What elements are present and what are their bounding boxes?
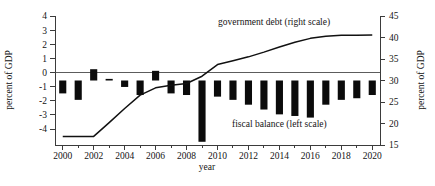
fiscal-balance-bar (307, 81, 314, 118)
x-tick-label: 2004 (115, 151, 134, 161)
fiscal-balance-bar (353, 81, 360, 99)
right-tick-label: 15 (389, 140, 399, 150)
left-tick-label: 0 (42, 68, 47, 78)
fiscal-balance-bar (198, 81, 205, 142)
fiscal-balance-bar (90, 69, 97, 80)
right-tick-label: 20 (389, 119, 399, 129)
x-tick-label: 2018 (332, 151, 351, 161)
right-tick-label: 45 (389, 11, 399, 21)
x-tick-label: 2020 (363, 151, 382, 161)
fiscal-balance-bar (106, 79, 113, 81)
x-tick-label: 2006 (146, 151, 165, 161)
fiscal-balance-bar (121, 81, 128, 87)
left-tick-label: -4 (39, 124, 47, 134)
fiscal-balance-bar (152, 71, 159, 81)
right-tick-label: 40 (389, 33, 399, 43)
x-tick-label: 2016 (301, 151, 320, 161)
right-tick-label: 30 (389, 76, 399, 86)
fiscal-balance-bar (291, 81, 298, 116)
left-tick-label: -3 (39, 110, 47, 120)
x-tick-label: 2010 (208, 151, 227, 161)
x-axis-tick-labels: 2000200220042006200820102012201420162018… (53, 151, 382, 161)
right-tick-label: 25 (389, 97, 399, 107)
left-tick-label: -1 (39, 82, 47, 92)
debt-series-label: government debt (right scale) (218, 17, 330, 28)
fiscal-balance-bar (245, 81, 252, 105)
fiscal-balance-bar (168, 81, 175, 94)
balance-series-label: fiscal balance (left scale) (232, 119, 327, 130)
right-axis-title: percent of GDP (416, 50, 426, 110)
fiscal-balance-and-debt-chart: 4 3 2 1 0 -1 -2 -3 -4 45 40 35 (0, 0, 435, 186)
left-tick-label: 4 (42, 11, 47, 21)
fiscal-balance-bar (75, 81, 82, 100)
right-tick-label: 35 (389, 54, 399, 64)
fiscal-balance-bar (229, 81, 236, 100)
left-tick-label: 1 (42, 54, 47, 64)
fiscal-balance-bar (322, 81, 329, 105)
fiscal-balance-bar (260, 81, 267, 110)
x-tick-label: 2008 (177, 151, 196, 161)
x-axis-title: year (199, 162, 216, 172)
fiscal-balance-bar (276, 81, 283, 115)
fiscal-balance-bar (59, 81, 66, 94)
left-axis-title: percent of GDP (4, 50, 14, 110)
fiscal-balance-bar (369, 81, 376, 96)
fiscal-balance-bar (338, 81, 345, 100)
fiscal-balance-bar (137, 81, 144, 96)
x-tick-label: 2000 (53, 151, 72, 161)
left-tick-label: -2 (39, 96, 47, 106)
x-tick-label: 2002 (84, 151, 103, 161)
left-tick-label: 3 (42, 26, 47, 36)
chart-container: 4 3 2 1 0 -1 -2 -3 -4 45 40 35 (0, 0, 435, 186)
left-tick-label: 2 (42, 40, 47, 50)
fiscal-balance-bar (214, 81, 221, 97)
x-tick-label: 2012 (239, 151, 258, 161)
x-tick-label: 2014 (270, 151, 289, 161)
